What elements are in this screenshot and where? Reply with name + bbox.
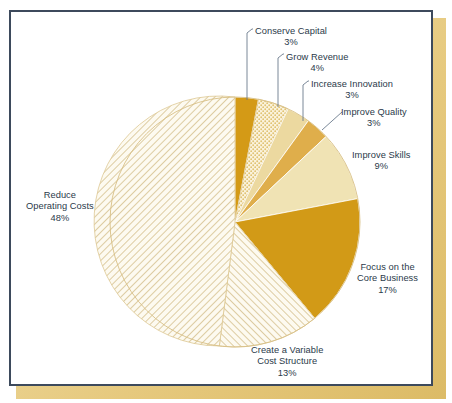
callout-improve-quality-pct: 3% (341, 118, 407, 129)
callout-create-variable-cost-structure: Create a Variable Cost Structure 13% (251, 345, 323, 379)
callout-improve-skills-pct: 9% (352, 161, 410, 172)
callout-reduce-operating-costs-pct: 48% (26, 213, 94, 224)
callout-create-variable-cost-line2: Cost Structure (257, 356, 317, 366)
callout-improve-skills: Improve Skills 9% (352, 150, 410, 173)
callout-increase-innovation-pct: 3% (311, 90, 393, 101)
callout-conserve-capital-pct: 3% (255, 37, 327, 48)
callout-create-variable-cost-line1: Create a Variable (251, 345, 323, 355)
callout-focus-core-business-line1: Focus on the (360, 262, 414, 272)
callout-grow-revenue: Grow Revenue 4% (286, 52, 349, 75)
callout-grow-revenue-name: Grow Revenue (286, 52, 349, 62)
callout-reduce-operating-costs-line2: Operating Costs (26, 201, 94, 211)
callout-create-variable-cost-pct: 13% (251, 368, 323, 379)
callout-improve-quality-name: Improve Quality (341, 107, 407, 117)
callout-reduce-operating-costs-line1: Reduce (44, 190, 76, 200)
callout-focus-core-business: Focus on the Core Business 17% (357, 262, 418, 296)
callout-improve-quality: Improve Quality 3% (341, 107, 407, 130)
callout-improve-skills-name: Improve Skills (352, 150, 410, 160)
callout-increase-innovation-name: Increase Innovation (311, 79, 393, 89)
callout-focus-core-business-pct: 17% (357, 285, 418, 296)
pie-chart-figure: Conserve Capital 3% Grow Revenue 4% Incr… (0, 0, 452, 403)
callout-increase-innovation: Increase Innovation 3% (311, 79, 393, 102)
callout-conserve-capital-name: Conserve Capital (255, 26, 327, 36)
callout-conserve-capital: Conserve Capital 3% (255, 26, 327, 49)
callout-focus-core-business-line2: Core Business (357, 273, 418, 283)
callout-reduce-operating-costs: Reduce Operating Costs 48% (26, 190, 94, 224)
callout-grow-revenue-pct: 4% (286, 63, 349, 74)
